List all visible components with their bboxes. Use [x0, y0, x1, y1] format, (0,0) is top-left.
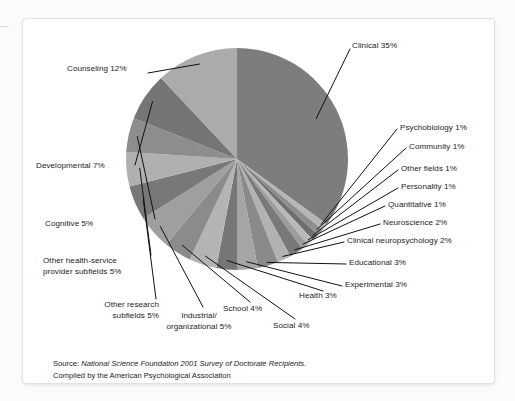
- slice-label-experimental: Experimental 3%: [345, 280, 407, 291]
- slice-label-health: Health 3%: [299, 291, 337, 302]
- edge-hairline: [0, 26, 9, 27]
- slice-label-neuroscience: Neuroscience 2%: [383, 218, 447, 229]
- leader-line-health: [227, 261, 323, 291]
- slice-label-cognitive: Cognitive 5%: [45, 219, 93, 230]
- slice-label-educational: Educational 3%: [349, 258, 406, 269]
- pie-slice-group: [126, 48, 348, 270]
- chart-card: Clinical 35% Psychobiology 1% Community …: [22, 18, 495, 384]
- slice-label-quantitative: Quantitative 1%: [388, 200, 446, 211]
- slice-label-counseling: Counseling 12%: [67, 64, 127, 75]
- slice-label-developmental: Developmental 7%: [36, 161, 105, 172]
- source-line-2: Compiled by the American Psychological A…: [53, 370, 473, 382]
- slice-label-other-research-subfields: Other researchsubfields 5%: [93, 300, 159, 321]
- source-line-1: Source: National Science Foundation 2001…: [53, 358, 473, 370]
- slice-label-clinical: Clinical 35%: [352, 41, 397, 52]
- slice-label-psychobiology: Psychobiology 1%: [400, 123, 467, 134]
- source-note: Source: National Science Foundation 2001…: [53, 358, 473, 381]
- source-prefix: Source:: [53, 359, 81, 368]
- slice-label-clinical-neuropsychology: Clinical neuropsychology 2%: [347, 236, 452, 247]
- figure-background: Clinical 35% Psychobiology 1% Community …: [0, 0, 515, 401]
- slice-label-social: Social 4%: [273, 321, 309, 332]
- leader-line-educational: [267, 262, 346, 264]
- slice-label-other-health-service-provider: Other health-serviceprovider subfields 5…: [43, 256, 153, 277]
- slice-label-industrial-organizational: Industrial/organizational 5%: [161, 311, 237, 332]
- slice-label-other-fields: Other fields 1%: [401, 164, 457, 175]
- slice-label-community: Community 1%: [409, 142, 464, 153]
- slice-label-personality: Personality 1%: [401, 182, 456, 193]
- source-citation: National Science Foundation 2001 Survey …: [81, 359, 306, 368]
